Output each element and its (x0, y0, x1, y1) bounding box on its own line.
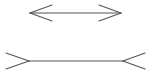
top-line-with-arrowheads (30, 5, 121, 21)
left-fin (6, 61, 29, 69)
left-fin (30, 5, 52, 13)
right-fin (123, 53, 145, 61)
right-fin (99, 13, 121, 21)
right-fin (99, 5, 121, 13)
bottom-line-with-tails (6, 53, 145, 69)
right-fin (123, 61, 145, 69)
left-fin (30, 13, 52, 21)
left-fin (6, 53, 29, 61)
muller-lyer-figure (0, 0, 152, 73)
